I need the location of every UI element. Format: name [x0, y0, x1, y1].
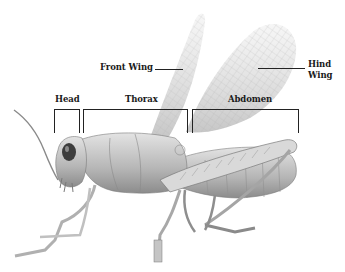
- grasshopper-illustration: [0, 0, 345, 272]
- label-thorax: Thorax: [125, 94, 158, 104]
- leader-line-hind-wing: [258, 68, 305, 69]
- bracket-thorax: [83, 109, 188, 133]
- label-front-wing: Front Wing: [100, 62, 153, 72]
- compound-eye: [62, 143, 76, 161]
- label-abdomen: Abdomen: [228, 94, 272, 104]
- antenna: [14, 110, 58, 180]
- leader-line-front-wing: [155, 69, 183, 70]
- bracket-abdomen: [192, 109, 299, 133]
- label-head: Head: [55, 94, 80, 104]
- label-hind-wing-line1: Hind: [308, 59, 331, 69]
- bracket-head: [54, 109, 80, 133]
- grasshopper-diagram: Front Wing Hind Wing Head Thorax Abdomen: [0, 0, 345, 272]
- label-hind-wing-line2: Wing: [308, 70, 332, 80]
